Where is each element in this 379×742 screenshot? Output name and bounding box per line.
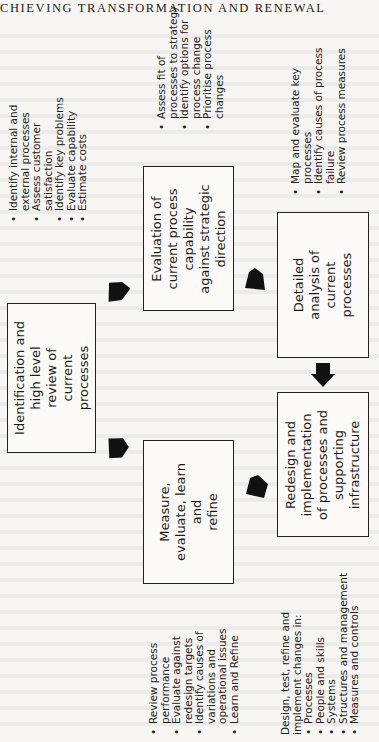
arrow-icon (104, 280, 130, 306)
box-measure: Measure, evaluate, learn and refine (143, 440, 234, 584)
notes-redesign: Design, test, refine and implement chang… (280, 573, 361, 735)
notes-measure: Review process performance Evaluate agai… (148, 628, 240, 735)
arrow-icon (310, 362, 336, 388)
notes-detailed-analysis: Map and evaluate key processes Identify … (290, 48, 348, 195)
box-identification-label: Identification and high level review of … (12, 321, 92, 435)
notes-identification: Identify internal and external processes… (8, 97, 89, 222)
box-measure-label: Measure, evaluate, learn and refine (157, 463, 221, 561)
box-detailed-analysis-label: Detailed analysis of current processes (291, 250, 355, 319)
box-redesign: Redesign and implementation of processes… (277, 392, 369, 537)
box-redesign-label: Redesign and implementation of processes… (283, 410, 363, 520)
box-detailed-analysis: Detailed analysis of current processes (277, 212, 369, 358)
arrow-icon (241, 266, 267, 292)
box-identification: Identification and high level review of … (7, 303, 96, 453)
arrow-icon (244, 474, 270, 500)
notes-evaluation: Assess fit of processes to strategy Iden… (156, 6, 225, 130)
box-evaluation-label: Evaluation of current process capability… (149, 184, 229, 293)
arrow-icon (104, 436, 130, 462)
box-evaluation: Evaluation of current process capability… (143, 166, 234, 311)
